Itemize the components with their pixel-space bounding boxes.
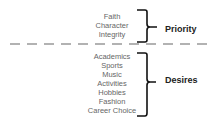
list-item: Hobbies [80, 88, 144, 97]
list-item: Sports [80, 61, 144, 70]
priority-brace-icon [137, 10, 157, 42]
priority-label: Priority [165, 24, 197, 34]
list-item: Academics [80, 52, 144, 61]
list-item: Faith [88, 12, 136, 21]
desires-list: Academics Sports Music Activities Hobbie… [80, 52, 144, 115]
priority-list: Faith Character Integrity [88, 12, 136, 39]
list-item: Music [80, 70, 144, 79]
list-item: Integrity [88, 30, 136, 39]
list-item: Fashion [80, 97, 144, 106]
list-item: Career Choice [80, 106, 144, 115]
list-item: Character [88, 21, 136, 30]
desires-label: Desires [165, 75, 198, 85]
list-item: Activities [80, 79, 144, 88]
